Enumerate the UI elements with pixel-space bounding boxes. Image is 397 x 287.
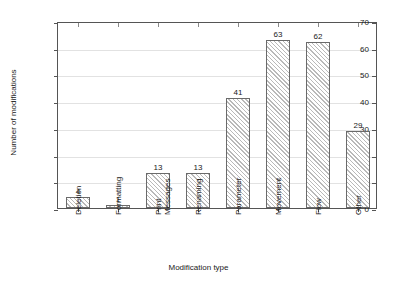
y-axis-tick-right	[372, 23, 376, 24]
y-axis-tick-label: 40	[360, 99, 369, 107]
y-axis-tick	[54, 103, 58, 104]
y-axis-tick-right	[372, 103, 376, 104]
x-axis-category-label: Deletion	[74, 186, 83, 215]
y-axis-tick-right	[372, 50, 376, 51]
bar-value-label: 13	[138, 164, 178, 172]
y-axis-tick-right	[372, 130, 376, 131]
x-axis-category-label: Print Messages	[154, 179, 172, 215]
x-axis-category-label: Movement	[274, 178, 283, 215]
y-axis-tick	[54, 130, 58, 131]
y-axis-tick-right	[372, 210, 376, 211]
bar-value-label: 62	[298, 33, 338, 41]
y-axis-tick-label: 50	[360, 72, 369, 80]
y-axis-tick	[54, 50, 58, 51]
x-axis-category-label: Other	[354, 195, 363, 215]
x-axis-tick-top	[78, 23, 79, 27]
y-axis-tick	[54, 23, 58, 24]
x-axis-category-label: Parameter	[234, 178, 243, 215]
bar-value-label: 41	[218, 89, 258, 97]
y-axis-tick-label: 70	[360, 19, 369, 27]
x-axis-category-label: Renaming	[194, 179, 203, 215]
x-axis-tick-top	[278, 23, 279, 27]
y-axis-tick	[54, 157, 58, 158]
x-axis-category-label: Flow	[314, 198, 323, 215]
y-axis-tick-right	[372, 157, 376, 158]
y-axis-tick-right	[372, 76, 376, 77]
y-axis-tick	[54, 76, 58, 77]
plot-area: 01020304050607041131341636229	[57, 22, 377, 209]
x-axis-tick-top	[198, 23, 199, 27]
x-axis-category-label: Formatting	[114, 177, 123, 215]
y-axis-tick-label: 60	[360, 46, 369, 54]
bar-value-label: 63	[258, 31, 298, 39]
x-axis-tick-top	[238, 23, 239, 27]
bar-value-label: 13	[178, 164, 218, 172]
x-axis-tick-top	[318, 23, 319, 27]
bar-chart: Number of modifications 0102030405060704…	[0, 0, 397, 287]
bar-value-label: 29	[338, 122, 378, 130]
x-axis-tick-top	[158, 23, 159, 27]
y-axis-title: Number of modifications	[9, 38, 18, 188]
bar	[306, 42, 330, 208]
y-axis-tick-right	[372, 183, 376, 184]
x-axis-title: Modification type	[0, 263, 397, 272]
x-axis-tick-top	[358, 23, 359, 27]
y-axis-tick	[54, 210, 58, 211]
y-axis-tick	[54, 183, 58, 184]
x-axis-tick-top	[118, 23, 119, 27]
